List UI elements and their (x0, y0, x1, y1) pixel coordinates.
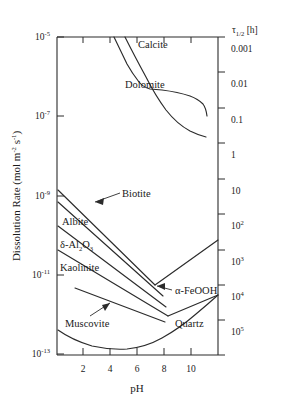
r-tick-2: 0.1 (231, 115, 243, 125)
y-axis-title-mid: s (10, 140, 22, 147)
x-tick-label-3: 8 (162, 364, 167, 374)
y-tick-label-2: 10 (35, 191, 45, 201)
svg-text:1: 1 (231, 150, 236, 160)
y-axis-title-suffix: ) (10, 131, 23, 135)
y-tick-exp-3: -11 (41, 268, 50, 275)
dissolution-rate-chart: 10-5 10-7 10-9 10-11 10-13 Dissolution R… (0, 0, 284, 407)
tau-subscript: 1/2 (236, 30, 244, 37)
label-calcite: Calcite (138, 39, 168, 50)
svg-text:0.001: 0.001 (231, 44, 253, 54)
svg-text:0.01: 0.01 (231, 79, 248, 89)
y-tick-label-3: 10 (32, 270, 42, 280)
label-albite: Albite (62, 216, 89, 227)
r-tick-4: 10 (231, 186, 241, 196)
r-tick-exp-5: 2 (241, 219, 244, 226)
r-tick-0: 0.001 (231, 44, 253, 54)
x-tick-label-4: 10 (186, 364, 196, 374)
r-tick-8: 10 (231, 327, 241, 337)
r-tick-6: 10 (231, 257, 241, 267)
svg-text:0.1: 0.1 (231, 115, 243, 125)
label-dolomite: Dolomite (125, 79, 165, 90)
r-tick-7: 10 (231, 292, 241, 302)
y-tick-exp-1: -7 (45, 109, 51, 116)
y-axis-title-prefix: Dissolution Rate (mol m (10, 152, 23, 261)
y-tick-label-0: 10 (35, 32, 45, 42)
y-tick-exp-0: -5 (45, 30, 51, 37)
y-tick-label-4: 10 (32, 349, 42, 359)
tau-unit: [h] (247, 25, 258, 35)
label-kaolinite: Kaolinite (60, 262, 99, 273)
label-biotite: Biotite (122, 188, 151, 199)
label-muscovite: Muscovite (65, 318, 110, 329)
y-tick-exp-4: -13 (41, 347, 50, 354)
label-quartz: Quartz (175, 318, 204, 329)
x-axis-title: pH (130, 382, 144, 394)
label-alpha-feooh: α-FeOOH (175, 285, 218, 296)
y-tick-exp-2: -9 (45, 189, 51, 196)
x-tick-label-0: 2 (81, 364, 86, 374)
y-tick-label-1: 10 (35, 111, 45, 121)
label-alumina-main: δ-Al (60, 239, 79, 250)
r-tick-1: 0.01 (231, 79, 248, 89)
x-tick-label-1: 4 (108, 364, 113, 374)
x-tick-label-2: 6 (135, 364, 140, 374)
r-tick-5: 10 (231, 221, 241, 231)
svg-text:10: 10 (231, 186, 241, 196)
r-tick-3: 1 (231, 150, 236, 160)
